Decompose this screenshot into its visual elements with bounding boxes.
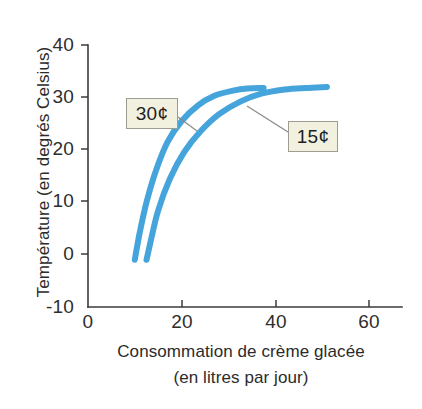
leader-line-15-cents (247, 106, 288, 132)
x-axis-title-line1: Consommation de crème glacée (76, 342, 406, 362)
x-tick-label-0: 0 (70, 311, 106, 333)
x-tick-label-40: 40 (258, 311, 294, 333)
chart-figure: 40 30 20 10 0 -10 0 20 40 60 Température… (0, 0, 422, 409)
callout-15-cents: 15¢ (288, 121, 338, 152)
x-axis-title-line2: (en litres par jour) (76, 368, 406, 388)
callout-30-cents: 30¢ (126, 98, 178, 129)
y-axis-title: Température (en degrés Celsius) (34, 42, 54, 302)
x-tick-label-20: 20 (164, 311, 200, 333)
x-tick-label-60: 60 (351, 311, 387, 333)
